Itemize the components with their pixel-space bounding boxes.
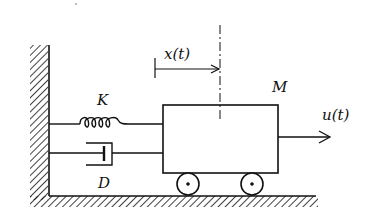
spring-label: K xyxy=(97,93,108,108)
ground xyxy=(30,196,318,207)
damper-label: D xyxy=(98,176,110,191)
stray-dot xyxy=(75,3,77,5)
fixed-wall xyxy=(30,45,49,200)
damper xyxy=(49,143,163,165)
wheels xyxy=(177,173,263,195)
force-arrow xyxy=(278,131,330,143)
spring xyxy=(49,118,163,127)
force-label: u(t) xyxy=(322,108,349,123)
displacement-label: x(t) xyxy=(164,47,190,62)
mass-label: M xyxy=(272,80,287,95)
